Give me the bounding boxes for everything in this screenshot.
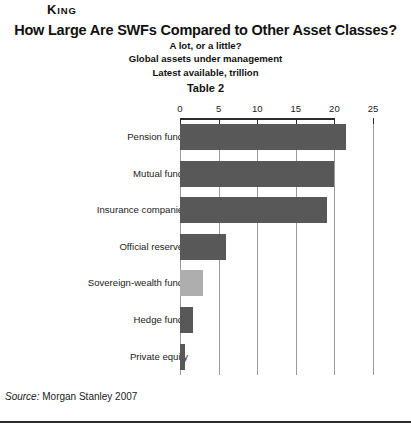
bar-row: Hedge funds <box>180 302 373 339</box>
bar <box>180 344 185 370</box>
bar-chart-plot: 0510152025 Pension fundsMutual fundsInsu… <box>180 118 373 375</box>
bar-row: Pension funds <box>180 119 373 156</box>
bar-row: Insurance companies <box>180 192 373 229</box>
source-note: Source: Morgan Stanley 2007 <box>5 391 137 402</box>
source-text: Morgan Stanley 2007 <box>42 391 137 402</box>
chart-subtitle-2: Global assets under management <box>0 53 411 65</box>
x-tick-25 <box>373 118 374 124</box>
x-tick-label-5: 5 <box>216 103 221 114</box>
source-label: Source: <box>5 391 39 402</box>
bar <box>180 307 193 333</box>
bar-row: Official reserves <box>180 229 373 266</box>
category-label: Pension funds <box>127 131 188 142</box>
x-tick-label-20: 20 <box>329 103 340 114</box>
x-tick-label-0: 0 <box>177 103 182 114</box>
bar <box>180 161 334 187</box>
bar-row: Private equity <box>180 339 373 376</box>
bar <box>180 124 346 150</box>
bar <box>180 197 327 223</box>
chart-title: How Large Are SWFs Compared to Other Ass… <box>0 22 411 39</box>
chart-header: How Large Are SWFs Compared to Other Ass… <box>0 22 411 95</box>
category-label: Sovereign-wealth funds <box>88 277 188 288</box>
bar-row: Mutual funds <box>180 156 373 193</box>
bar <box>180 234 226 260</box>
bar <box>180 270 203 296</box>
category-label: Insurance companies <box>97 204 188 215</box>
running-head-initial: K <box>47 2 57 17</box>
bar-rows: Pension fundsMutual fundsInsurance compa… <box>180 119 373 375</box>
chart-subtitle-3: Latest available, trillion <box>0 67 411 79</box>
running-head: KING <box>47 2 77 17</box>
category-label: Official reserves <box>119 241 188 252</box>
bar-row: Sovereign-wealth funds <box>180 265 373 302</box>
x-tick-label-10: 10 <box>252 103 263 114</box>
table-number: Table 2 <box>0 81 411 95</box>
running-head-rest: ING <box>57 5 77 16</box>
gridline-25 <box>373 118 374 375</box>
x-tick-label-15: 15 <box>291 103 302 114</box>
x-tick-label-25: 25 <box>368 103 379 114</box>
chart-subtitle-1: A lot, or a little? <box>0 40 411 52</box>
bottom-rule <box>0 421 411 423</box>
